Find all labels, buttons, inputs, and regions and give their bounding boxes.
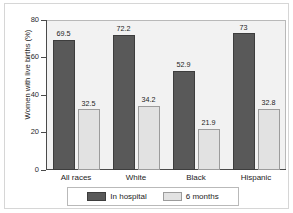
x-axis-category-label: Hispanic — [216, 173, 293, 183]
y-axis-tick-label: 0 — [5, 166, 39, 174]
bar-value-label: 21.9 — [192, 119, 226, 127]
chart-legend: In hospital6 months — [67, 187, 239, 206]
bar-hispanic-6-months — [258, 109, 280, 171]
bar-value-label: 69.5 — [47, 30, 81, 38]
bar-value-label: 72.2 — [107, 25, 141, 33]
bar-white-6-months — [138, 106, 160, 170]
y-axis-title: Women with live births (%) — [23, 11, 32, 139]
bar-all-races-6-months — [78, 109, 100, 170]
bar-value-label: 32.8 — [252, 99, 286, 107]
bar-black-6-months — [198, 129, 220, 170]
bar-value-label: 32.5 — [72, 100, 106, 108]
legend-swatch-icon — [163, 192, 182, 201]
bar-value-label: 34.2 — [132, 96, 166, 104]
bar-value-label: 73 — [227, 24, 261, 32]
plot-area: 69.532.5All races72.234.2White52.921.9Bl… — [46, 20, 286, 170]
bar-value-label: 52.9 — [167, 61, 201, 69]
legend-swatch-icon — [87, 192, 106, 201]
legend-item-6-months: 6 months — [163, 192, 219, 201]
legend-item-in-hospital: In hospital — [87, 192, 146, 201]
legend-label: 6 months — [186, 192, 219, 201]
figure-frame: 020406080 Women with live births (%) 69.… — [4, 3, 289, 209]
legend-label: In hospital — [110, 192, 146, 201]
